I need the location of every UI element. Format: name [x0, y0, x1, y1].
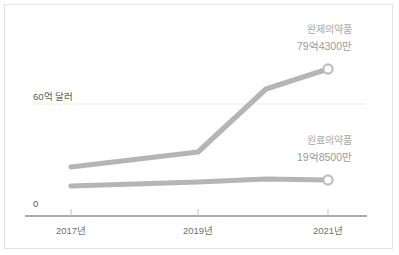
x-axis-label-2019: 2019년 [183, 225, 213, 236]
x-axis-label-2017: 2017년 [56, 225, 86, 236]
series-label-finished: 완제의약품 [307, 24, 352, 35]
series-label-raw: 원료의약품 [307, 135, 352, 146]
y-axis-zero-label: 0 [33, 198, 38, 209]
series-line-finished [71, 69, 328, 167]
chart-svg: 60억 달러 0 2017년 2019년 2021년 완제의약품 79억4300… [5, 5, 394, 250]
line-chart-plot: 60억 달러 0 2017년 2019년 2021년 완제의약품 79억4300… [5, 5, 392, 248]
x-axis-label-2021: 2021년 [313, 225, 343, 236]
chart-container: 60억 달러 0 2017년 2019년 2021년 완제의약품 79억4300… [4, 4, 393, 249]
series-line-raw [71, 179, 328, 186]
endpoint-marker-raw [323, 175, 332, 184]
series-value-raw: 19억8500만 [297, 151, 352, 163]
y-axis-gridline-label: 60억 달러 [33, 91, 73, 102]
series-value-finished: 79억4300만 [297, 40, 352, 52]
endpoint-marker-finished [323, 64, 332, 73]
